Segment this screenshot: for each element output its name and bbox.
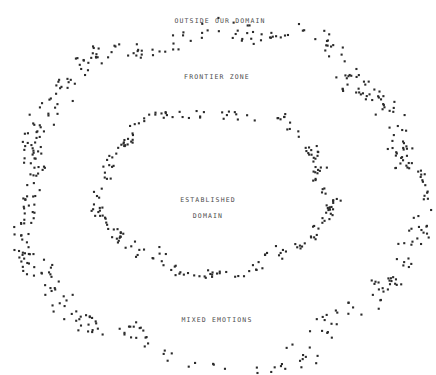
scatter-dot: [141, 50, 143, 52]
scatter-dot: [85, 314, 87, 316]
scatter-dot: [427, 198, 429, 200]
scatter-dot: [323, 30, 325, 32]
scatter-dot: [401, 156, 403, 158]
scatter-dot: [129, 125, 131, 127]
scatter-dot: [162, 264, 164, 266]
scatter-dot: [413, 217, 415, 219]
scatter-dot: [27, 142, 29, 144]
scatter-dot: [382, 108, 384, 110]
scatter-dot: [256, 372, 258, 374]
scatter-dot: [35, 137, 37, 139]
scatter-dot: [313, 236, 315, 238]
scatter-dot: [392, 111, 394, 113]
scatter-dot: [380, 98, 382, 100]
scatter-dot: [101, 188, 103, 190]
scatter-dot: [410, 263, 412, 265]
scatter-dot: [261, 33, 263, 35]
scatter-dot: [165, 253, 167, 255]
scatter-dot: [133, 326, 135, 328]
scatter-dot: [22, 197, 24, 199]
scatter-dot: [280, 252, 282, 254]
scatter-dot: [87, 330, 89, 332]
scatter-dot: [122, 233, 124, 235]
scatter-dot: [95, 320, 97, 322]
scatter-dot: [182, 31, 184, 33]
scatter-dot: [94, 215, 96, 217]
scatter-dot: [387, 277, 389, 279]
scatter-dot: [232, 37, 234, 39]
scatter-dot: [187, 272, 189, 274]
scatter-dot: [297, 130, 299, 132]
scatter-dot: [325, 193, 327, 195]
scatter-dot: [344, 74, 346, 76]
scatter-dot: [54, 107, 56, 109]
scatter-dot: [378, 281, 380, 283]
scatter-dot: [98, 197, 100, 199]
scatter-dot: [224, 368, 226, 370]
scatter-dot: [279, 118, 281, 120]
scatter-dot: [98, 47, 100, 49]
scatter-dot: [20, 235, 22, 237]
scatter-dot: [161, 260, 163, 262]
scatter-dot: [252, 31, 254, 33]
label-outside-our-domain: OUTSIDE OUR DOMAIN: [174, 17, 265, 25]
scatter-dot: [44, 294, 46, 296]
scatter-dot: [47, 114, 49, 116]
scatter-dot: [319, 170, 321, 172]
scatter-dot: [151, 49, 153, 51]
scatter-dot: [410, 244, 412, 246]
scatter-dot: [298, 23, 300, 25]
label-mixed-emotions: MIXED EMOTIONS: [182, 316, 253, 324]
scatter-dot: [207, 29, 209, 31]
scatter-dot: [23, 162, 25, 164]
scatter-dot: [23, 207, 25, 209]
scatter-dot: [315, 179, 317, 181]
scatter-dot: [213, 364, 215, 366]
scatter-dot: [57, 81, 59, 83]
scatter-dot: [400, 283, 402, 285]
scatter-dot: [425, 226, 427, 228]
scatter-dot: [321, 217, 323, 219]
scatter-dot: [102, 166, 104, 168]
scatter-dot: [383, 104, 385, 106]
scatter-dot: [328, 218, 330, 220]
scatter-dot: [256, 367, 258, 369]
scatter-dot: [332, 208, 334, 210]
scatter-dot: [138, 249, 140, 251]
scatter-dot: [243, 275, 245, 277]
scatter-dot: [341, 54, 343, 56]
scatter-dot: [34, 157, 36, 159]
scatter-dot: [48, 271, 50, 273]
scatter-dot: [382, 287, 384, 289]
scatter-dot: [165, 112, 167, 114]
scatter-dot: [331, 337, 333, 339]
scatter-dot: [403, 142, 405, 144]
scatter-dot: [163, 353, 165, 355]
scatter-dot: [199, 117, 201, 119]
scatter-dot: [105, 222, 107, 224]
scatter-dot: [138, 122, 140, 124]
scatter-dot: [164, 350, 166, 352]
scatter-dot: [328, 55, 330, 57]
scatter-dot: [372, 294, 374, 296]
scatter-dot: [89, 316, 91, 318]
scatter-dot: [75, 58, 77, 60]
scatter-dot: [261, 267, 263, 269]
scatter-dot: [102, 215, 104, 217]
scatter-dot: [235, 33, 237, 35]
scatter-dot: [286, 347, 288, 349]
scatter-dot: [237, 275, 239, 277]
scatter-dot: [203, 111, 205, 113]
scatter-dot: [188, 117, 190, 119]
scatter-dot: [139, 327, 141, 329]
scatter-dot: [278, 254, 280, 256]
scatter-dot: [92, 329, 94, 331]
scatter-dot: [111, 166, 113, 168]
scatter-dot: [426, 192, 428, 194]
scatter-dot: [237, 30, 239, 32]
scatter-dot: [147, 342, 149, 344]
scatter-dot: [159, 253, 161, 255]
scatter-dot: [218, 30, 220, 32]
scatter-dot: [382, 291, 384, 293]
scatter-dot: [34, 141, 36, 143]
